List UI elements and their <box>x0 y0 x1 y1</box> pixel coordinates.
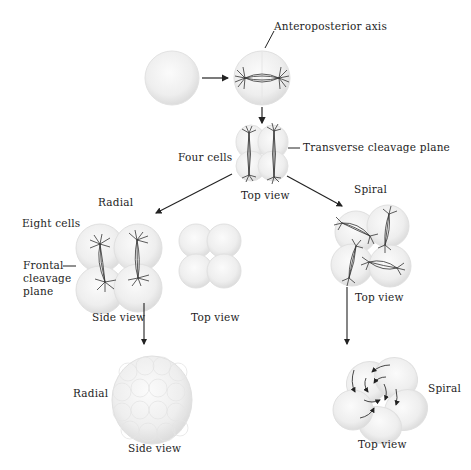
zygote-cell <box>145 51 199 105</box>
label-top-view-spiral-bottom: Top view <box>358 438 407 450</box>
four-cell-stage <box>236 123 288 184</box>
label-frontal-line3: plane <box>23 285 71 298</box>
label-spiral-bottom: Spiral <box>428 382 461 394</box>
label-radial-heading: Radial <box>98 196 133 208</box>
cleavage-diagram <box>0 0 471 470</box>
label-side-view-radial-bottom: Side view <box>128 442 181 454</box>
radial-eight-cell-side-view <box>76 224 162 314</box>
label-frontal-cleavage-plane: Frontal cleavage plane <box>23 259 71 298</box>
label-transverse-cleavage-plane: Transverse cleavage plane <box>303 141 450 153</box>
label-top-view-radial-eight: Top view <box>191 311 240 323</box>
anteroposterior-axis-leader <box>265 31 274 48</box>
arrow-to-spiral <box>287 176 342 206</box>
spiral-eight-cell-top-view <box>331 205 411 287</box>
label-four-cells: Four cells <box>178 151 232 163</box>
label-spiral-heading: Spiral <box>354 183 387 195</box>
two-cell-stage <box>234 51 290 105</box>
label-radial-bottom: Radial <box>73 387 108 399</box>
label-frontal-line2: cleavage <box>23 272 71 285</box>
label-eight-cells: Eight cells <box>22 217 80 229</box>
spiral-morula-top-view <box>333 350 435 450</box>
label-top-view-spiral-eight: Top view <box>355 291 404 303</box>
label-anteroposterior-axis: Anteroposterior axis <box>274 20 387 32</box>
arrow-to-radial <box>156 174 232 213</box>
radial-morula-side-view <box>112 356 192 444</box>
radial-eight-cell-top-view <box>179 224 241 288</box>
label-side-view-radial-eight: Side view <box>92 311 145 323</box>
label-top-view-four-cell: Top view <box>241 189 290 201</box>
label-frontal-line1: Frontal <box>23 259 71 272</box>
